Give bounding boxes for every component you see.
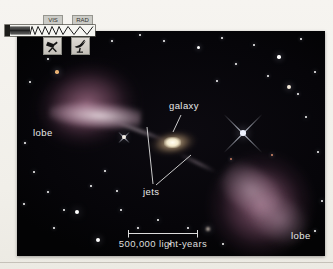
radio-dish-icon bbox=[71, 37, 90, 55]
spectrum-waves-icon bbox=[5, 25, 95, 36]
galaxy-label: galaxy bbox=[169, 100, 199, 111]
scale-bar-label: 500,000 light-years bbox=[101, 238, 225, 249]
annotation-lines bbox=[17, 31, 325, 256]
lobe-left-label: lobe bbox=[33, 127, 53, 138]
jets-label: jets bbox=[143, 186, 159, 197]
book-page: galaxy lobe jets lobe 500,000 light-year… bbox=[0, 0, 333, 269]
spectrum-strip bbox=[5, 25, 95, 36]
lobe-right-label: lobe bbox=[291, 230, 311, 241]
optical-telescope-icon bbox=[43, 37, 62, 55]
spectrum-dark-end bbox=[5, 25, 10, 36]
page-edge-line bbox=[0, 262, 333, 263]
wavelength-legend: VIS RAD bbox=[4, 15, 98, 54]
astronomy-photo: galaxy lobe jets lobe 500,000 light-year… bbox=[17, 31, 325, 256]
